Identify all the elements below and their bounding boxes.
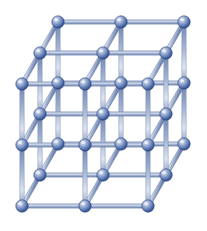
lattice-bond [103, 173, 166, 177]
atom-specular-highlight [81, 141, 85, 144]
figure-root: ( ) 6 Simple cubic crystal lattice [0, 0, 207, 231]
lattice-atom [34, 47, 46, 59]
lattice-atom [97, 169, 109, 181]
lattice-atom [79, 139, 91, 151]
lattice-bond [20, 145, 24, 206]
atom-specular-highlight [144, 141, 148, 144]
atom-specular-highlight [180, 18, 184, 21]
lattice-atom [52, 138, 64, 150]
atom-specular-highlight [99, 171, 103, 174]
lattice-atom [115, 77, 127, 89]
lattice-bond [20, 84, 24, 145]
lattice-bond [182, 22, 186, 83]
lattice-bond [146, 84, 150, 145]
lattice-bond [182, 83, 186, 144]
atom-specular-highlight [162, 110, 166, 113]
atom-specular-highlight [36, 49, 40, 52]
lattice-bond [146, 145, 150, 206]
atom-specular-highlight [180, 79, 184, 82]
lattice-atom [142, 139, 154, 151]
lattice-atom [178, 16, 190, 28]
lattice-atom [160, 108, 172, 120]
atom-specular-highlight [18, 202, 22, 205]
lattice-bond [121, 20, 184, 24]
lattice-atom [79, 200, 91, 212]
atom-specular-highlight [36, 171, 40, 174]
atom-specular-highlight [36, 110, 40, 113]
lattice-atom [160, 169, 172, 181]
lattice-atom [115, 16, 127, 28]
lattice-atom [16, 139, 28, 151]
lattice-atom [97, 108, 109, 120]
atom-specular-highlight [18, 141, 22, 144]
atom-specular-highlight [117, 140, 121, 143]
atom-specular-highlight [117, 79, 121, 82]
lattice-atom [160, 47, 172, 59]
lattice-bond [103, 51, 166, 55]
atom-specular-highlight [99, 110, 103, 113]
lattice-atom [178, 138, 190, 150]
lattice-atom [16, 78, 28, 90]
atom-specular-highlight [18, 80, 22, 83]
lattice-bond [164, 53, 168, 114]
atom-specular-highlight [162, 171, 166, 174]
atom-specular-highlight [54, 79, 58, 82]
lattice-bond [40, 112, 103, 116]
atom-specular-highlight [54, 140, 58, 143]
atom-specular-highlight [180, 140, 184, 143]
atom-specular-highlight [99, 49, 103, 52]
crystal-lattice-diagram: Simple cubic crystal lattice [0, 0, 207, 231]
lattice-atom [79, 78, 91, 90]
lattice-atom [142, 200, 154, 212]
lattice-bond [85, 204, 148, 208]
lattice-atom [115, 138, 127, 150]
atom-specular-highlight [54, 18, 58, 21]
lattice-atom [34, 169, 46, 181]
lattice-bond [22, 204, 85, 208]
atom-specular-highlight [144, 80, 148, 83]
lattice-bond [40, 51, 103, 55]
atom-specular-highlight [81, 202, 85, 205]
lattice-atom [52, 77, 64, 89]
lattice-atom [97, 47, 109, 59]
lattice-atom [16, 200, 28, 212]
lattice-atom [178, 77, 190, 89]
lattice-bond [103, 112, 166, 116]
atom-specular-highlight [162, 49, 166, 52]
atom-specular-highlight [144, 202, 148, 205]
lattice-bond [164, 114, 168, 175]
lattice-bond [83, 84, 87, 145]
atom-specular-highlight [117, 18, 121, 21]
lattice-atom [142, 78, 154, 90]
lattice-bond [83, 145, 87, 206]
lattice-bond [58, 20, 121, 24]
lattice-atom [52, 16, 64, 28]
atom-specular-highlight [81, 80, 85, 83]
lattice-atom [34, 108, 46, 120]
lattice-bond [40, 173, 103, 177]
